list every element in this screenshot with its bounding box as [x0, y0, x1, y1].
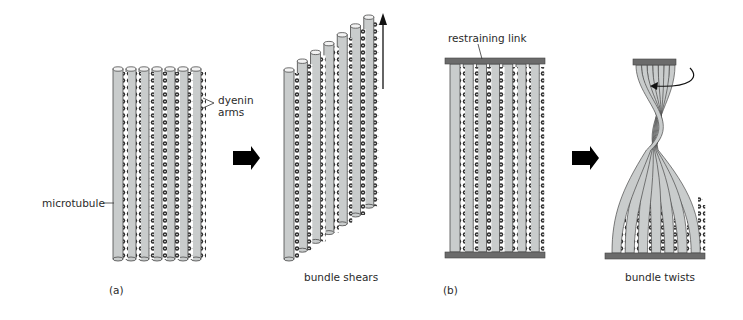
sheared-bundle [284, 15, 379, 261]
dynein-bundle-diagram: dyenin arms microtubule (a) bundle shear… [0, 0, 743, 320]
transition-arrow-icon-b [572, 146, 599, 170]
dynein-arms-label: dyenin arms [218, 94, 254, 118]
straight-bundle [113, 67, 206, 261]
restrained-bundle [445, 58, 545, 258]
shear-direction-arrow-icon [379, 13, 387, 89]
transition-arrow-icon-a [233, 146, 260, 170]
restraining-link-pointer [478, 44, 482, 59]
microtubule-label: microtubule [42, 197, 105, 209]
bundle-shears-caption: bundle shears [304, 271, 378, 283]
twisted-bundle [605, 59, 705, 259]
dynein-label-line2: arms [218, 106, 254, 118]
dynein-label-line1: dyenin [218, 94, 254, 106]
restraining-link-label: restraining link [448, 32, 527, 44]
panel-a-tag: (a) [109, 284, 124, 296]
panel-b-tag: (b) [443, 284, 458, 296]
bundle-twists-caption: bundle twists [625, 271, 695, 283]
